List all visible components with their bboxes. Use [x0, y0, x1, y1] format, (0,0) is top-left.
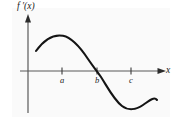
x-axis	[20, 68, 166, 74]
tick-label-b: b	[91, 76, 103, 85]
tick-label-c: c	[125, 76, 137, 85]
tick-label-a: a	[56, 76, 68, 85]
figure-container: f ′(x) x a b c	[0, 0, 181, 125]
derivative-curve	[36, 35, 157, 109]
x-axis-label: x	[166, 66, 170, 76]
y-axis	[25, 14, 31, 113]
y-axis-label: f ′(x)	[17, 2, 35, 12]
plot-svg	[0, 0, 181, 125]
